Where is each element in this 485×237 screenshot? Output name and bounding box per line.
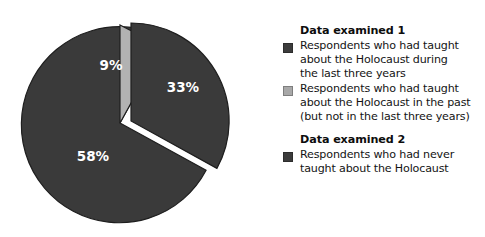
pie-chart-figure: 33% 58% 9% Data examined 1 Respondents w… [0,0,485,237]
pie-label-9: 9% [100,57,123,73]
legend-item[interactable]: Respondents who had taught about the Hol… [282,82,482,125]
legend-swatch-icon [283,152,293,162]
legend-item-label: Respondents who had taught about the Hol… [300,39,482,82]
legend-group-data-examined-2: Data examined 2 Respondents who had neve… [282,133,482,176]
legend-swatch-icon [283,43,293,53]
legend-group-data-examined-1: Data examined 1 Respondents who had taug… [282,24,482,124]
legend-item[interactable]: Respondents who had taught about the Hol… [282,39,482,82]
legend-group-title: Data examined 2 [300,133,482,147]
chart-area: 33% 58% 9% [0,0,240,237]
legend-item[interactable]: Respondents who had never taught about t… [282,148,482,176]
pie-chart-svg: 33% 58% 9% [0,0,240,237]
pie-label-58: 58% [77,148,110,164]
legend-swatch-icon [283,86,293,96]
legend: Data examined 1 Respondents who had taug… [282,24,482,177]
legend-item-label: Respondents who had taught about the Hol… [300,82,482,125]
pie-label-33: 33% [167,79,200,95]
legend-group-title: Data examined 1 [300,24,482,38]
legend-item-label: Respondents who had never taught about t… [300,148,482,176]
